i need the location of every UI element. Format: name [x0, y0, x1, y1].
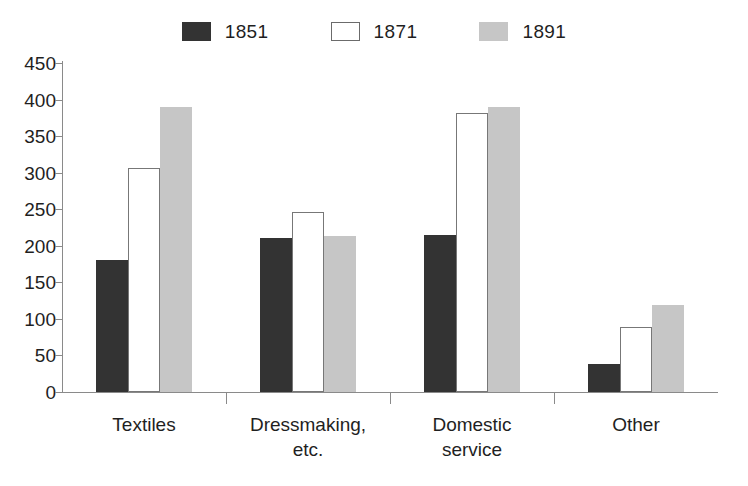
x-axis-category-label: Textiles	[112, 412, 175, 437]
x-axis-category-labels: TextilesDressmaking, etc.Domestic servic…	[0, 412, 748, 478]
plot-area: 050100150200250300350400450 TextilesDres…	[0, 0, 748, 486]
bar-1851-textiles	[96, 260, 128, 392]
bar-1871-textiles	[128, 168, 160, 392]
x-axis-category-label: Dressmaking, etc.	[250, 412, 366, 462]
bar-1851-other	[588, 364, 620, 392]
bar-1851-domestic-service	[424, 235, 456, 392]
bar-1871-dressmaking-etc	[292, 212, 324, 392]
bar-1871-other	[620, 327, 652, 392]
bar-1871-domestic-service	[456, 113, 488, 392]
bar-1891-other	[652, 305, 684, 392]
x-axis-category-label: Other	[612, 412, 660, 437]
x-axis-category-label: Domestic service	[432, 412, 511, 462]
bar-1851-dressmaking-etc	[260, 238, 292, 392]
bar-chart: 1851 1871 1891 0501001502002503003504004…	[0, 0, 748, 486]
bar-1891-domestic-service	[488, 107, 520, 392]
bar-1891-dressmaking-etc	[324, 236, 356, 392]
bar-1891-textiles	[160, 107, 192, 392]
